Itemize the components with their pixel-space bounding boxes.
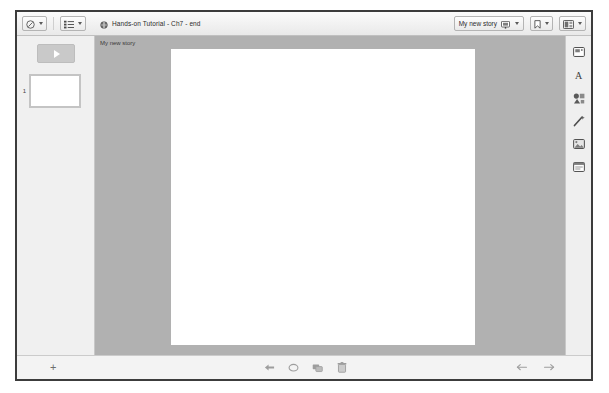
- chevron-down-icon: [515, 22, 519, 25]
- shape-tool-icon[interactable]: [287, 361, 300, 374]
- bookmark-icon: [534, 15, 541, 33]
- slide-list-item[interactable]: 1: [17, 74, 94, 108]
- application-window: Hands-on Tutorial - Ch7 - end My new sto…: [15, 10, 593, 381]
- toolbar-right-group: My new story: [454, 16, 586, 31]
- redo-icon[interactable]: [542, 361, 555, 374]
- story-selector-button[interactable]: My new story: [454, 16, 524, 31]
- share-window-icon: [563, 15, 574, 33]
- image-tool-icon[interactable]: [571, 137, 587, 151]
- pointer-tool-icon[interactable]: [263, 361, 276, 374]
- shapes-tool-icon[interactable]: [571, 91, 587, 105]
- toolbar-left-group: Hands-on Tutorial - Ch7 - end: [22, 15, 201, 33]
- play-presentation-button[interactable]: [37, 44, 75, 63]
- presentation-screen-icon: [501, 15, 510, 33]
- slide-canvas[interactable]: [171, 49, 475, 345]
- page-title: Hands-on Tutorial - Ch7 - end: [112, 20, 201, 27]
- slide-navigator-panel: 1: [17, 36, 95, 355]
- chevron-down-icon: [78, 22, 82, 25]
- theme-button[interactable]: [22, 16, 47, 31]
- duplicate-tool-icon[interactable]: [311, 361, 324, 374]
- text-tool-icon[interactable]: A: [571, 68, 587, 82]
- chevron-down-icon: [578, 22, 582, 25]
- tool-rail: A: [565, 36, 591, 355]
- bookmark-button[interactable]: [530, 16, 553, 31]
- document-title-group: Hands-on Tutorial - Ch7 - end: [100, 15, 201, 33]
- slide-thumbnail-1[interactable]: [29, 74, 81, 108]
- media-tool-icon[interactable]: [571, 160, 587, 174]
- palette-icon: [26, 15, 35, 33]
- main-body: 1 My new story A: [17, 36, 591, 355]
- chevron-down-icon: [39, 22, 43, 25]
- top-toolbar: Hands-on Tutorial - Ch7 - end My new sto…: [17, 12, 591, 36]
- chevron-down-icon: [545, 22, 549, 25]
- bottom-center-tools: [263, 361, 348, 374]
- layout-list-icon: [64, 15, 74, 33]
- bottom-toolbar: +: [17, 355, 591, 379]
- document-globe-icon: [100, 15, 108, 33]
- canvas-work-area[interactable]: My new story: [95, 36, 565, 355]
- undo-icon[interactable]: [515, 361, 528, 374]
- layout-button[interactable]: [60, 16, 86, 31]
- toolbar-divider: [53, 17, 54, 30]
- slide-index-label: 1: [20, 88, 29, 94]
- play-icon: [54, 50, 60, 58]
- canvas-story-label: My new story: [100, 40, 135, 46]
- bottom-right-tools: [515, 361, 555, 374]
- story-selector-label: My new story: [459, 20, 497, 27]
- share-button[interactable]: [559, 16, 586, 31]
- magic-wand-icon[interactable]: [571, 114, 587, 128]
- add-slide-button[interactable]: +: [50, 362, 56, 373]
- delete-tool-icon[interactable]: [335, 361, 348, 374]
- slide-frame-icon[interactable]: [571, 45, 587, 59]
